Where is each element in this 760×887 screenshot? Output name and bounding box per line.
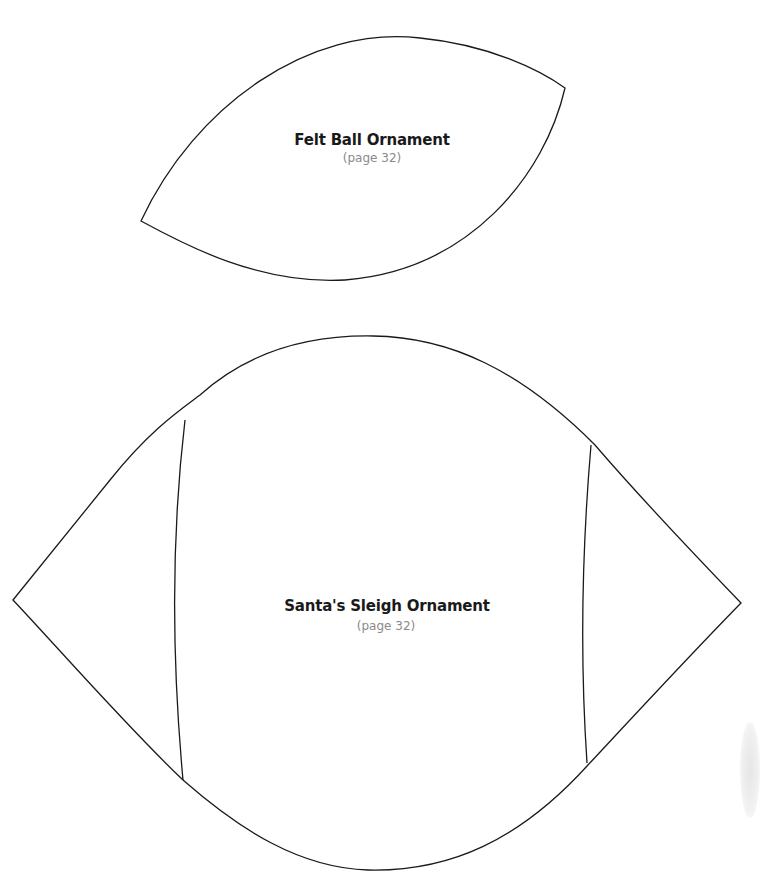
sleigh-seam-left [175, 420, 185, 780]
felt-ball-page-ref: (page 32) [343, 151, 401, 165]
sleigh-page-ref: (page 32) [357, 619, 415, 633]
sleigh-seam-right [583, 445, 591, 763]
page-edge-smudge [740, 722, 760, 818]
sleigh-title: Santa's Sleigh Ornament [284, 597, 490, 615]
felt-ball-title: Felt Ball Ornament [294, 131, 449, 149]
